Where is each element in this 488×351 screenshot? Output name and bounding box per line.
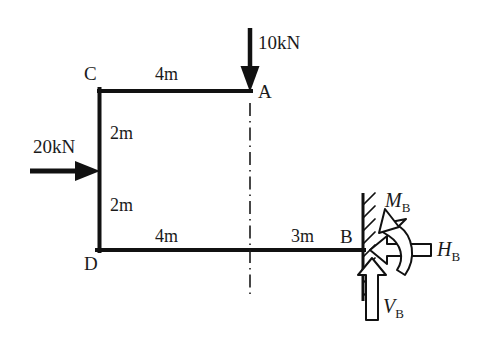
dimension-label-lower-column: 2m (110, 196, 133, 214)
dimension-label-bottom-right-span: 3m (291, 227, 314, 245)
load-arrow-20kn (30, 161, 100, 181)
reaction-label-VB-subscript: B (395, 306, 404, 321)
reaction-label-HB-subscript: B (451, 249, 460, 264)
dimension-label-upper-column: 2m (110, 124, 133, 142)
reaction-label-VB: VB (383, 296, 404, 320)
load-arrow-10kn (241, 28, 260, 92)
dimension-label-top-span: 4m (155, 65, 178, 83)
reaction-label-HB-symbol: H (437, 238, 451, 260)
load-20kn-arrowhead (75, 161, 100, 181)
dimension-label-bottom-left-span: 4m (155, 227, 178, 245)
load-10kn-arrowhead (241, 66, 260, 92)
node-label-B: B (340, 227, 353, 246)
figure-canvas: A B C D 4m 2m 2m 4m 3m 10kN 20kN MB HB V… (0, 0, 488, 351)
node-label-C: C (84, 64, 97, 83)
reaction-label-MB-symbol: M (385, 189, 402, 211)
reaction-label-MB-subscript: B (402, 200, 411, 215)
reaction-label-HB: HB (437, 239, 460, 263)
node-label-A: A (258, 82, 272, 101)
reaction-label-MB: MB (385, 190, 410, 214)
reaction-label-VB-symbol: V (383, 295, 395, 317)
load-label-10kn: 10kN (258, 33, 300, 52)
frame-diagram-svg (0, 0, 488, 351)
load-label-20kn: 20kN (33, 137, 75, 156)
frame-members (97, 89, 364, 251)
node-label-D: D (84, 254, 98, 273)
